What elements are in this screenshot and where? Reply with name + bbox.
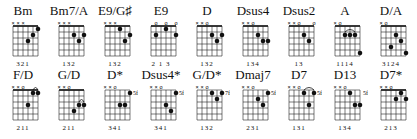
muted-string-icon: ×: [379, 84, 382, 90]
fretboard-grid: ××o5fr: [138, 82, 184, 124]
finger-dot-icon: [348, 91, 353, 96]
muted-string-icon: ×: [62, 84, 65, 90]
open-string-icon: o: [164, 20, 167, 26]
open-string-icon: o: [67, 84, 70, 90]
muted-string-icon: ×: [333, 20, 336, 26]
chord-name: G/D*: [184, 68, 230, 82]
muted-string-icon: ×: [103, 84, 106, 90]
fretboard-grid: ××o5fr: [230, 82, 276, 124]
chord-name: D7: [276, 68, 322, 82]
finger-dot-icon: [128, 91, 133, 96]
fretboard-grid: ×××: [92, 18, 138, 60]
open-string-icon: o: [159, 84, 162, 90]
finger-dot-icon: [312, 91, 317, 96]
finger-dot-icon: [266, 91, 271, 96]
chord-diagram: D7××o5fr131: [276, 68, 322, 134]
chord-diagram: D/A×o3124: [368, 4, 414, 70]
fretboard-grid: ××o7fr: [184, 82, 230, 124]
fretboard-grid: ×o: [322, 18, 368, 60]
chord-name: D: [184, 4, 230, 18]
finger-dot-icon: [348, 33, 353, 38]
finger-dot-icon: [394, 33, 399, 38]
finger-dot-icon: [389, 45, 394, 50]
chord-diagram: Dmaj7××o5fr231: [230, 68, 276, 134]
chord-name: F/D: [0, 68, 46, 82]
chord-diagram: D7*××o213: [368, 68, 414, 134]
muted-string-icon: ×: [108, 20, 111, 26]
barre-arc-icon: [79, 100, 84, 103]
barre-arc-icon: [304, 88, 314, 91]
chord-diagram: E9/G♯×××132: [92, 4, 138, 70]
muted-string-icon: ×: [16, 20, 19, 26]
chord-name: G/D: [46, 68, 92, 82]
muted-string-icon: ×: [241, 84, 244, 90]
muted-string-icon: ×: [246, 20, 249, 26]
finger-dot-icon: [169, 109, 174, 114]
finger-dot-icon: [82, 103, 87, 108]
open-string-icon: o: [389, 84, 392, 90]
fretboard-grid: ××o: [0, 82, 46, 124]
chord-diagram: D*××o5fr341: [92, 68, 138, 134]
chord-name: Dsus4*: [138, 68, 184, 82]
muted-string-icon: ×: [195, 84, 198, 90]
finger-dot-icon: [399, 39, 404, 44]
muted-string-icon: ×: [287, 20, 290, 26]
finger-dot-icon: [31, 33, 36, 38]
chord-diagram: Bm×××321: [0, 4, 46, 70]
fretboard-grid: ×××: [46, 18, 92, 60]
finger-dot-icon: [307, 103, 312, 108]
chord-diagram: D13××o5fr134: [322, 68, 368, 134]
open-string-icon: o: [174, 20, 177, 26]
fingering-label: 231: [230, 124, 276, 132]
fretboard-grid: ××oo: [276, 18, 322, 60]
muted-string-icon: ×: [62, 20, 65, 26]
finger-dot-icon: [72, 109, 77, 114]
muted-string-icon: ×: [287, 84, 290, 90]
open-string-icon: o: [297, 20, 300, 26]
muted-string-icon: ×: [57, 84, 60, 90]
open-string-icon: o: [154, 20, 157, 26]
chord-diagram: Dsus2××oo13: [276, 4, 322, 70]
finger-dot-icon: [302, 91, 307, 96]
fretboard-grid: ××o: [184, 18, 230, 60]
chord-diagram: Bm7/A×××132: [46, 4, 92, 70]
chord-name: D13: [322, 68, 368, 82]
finger-dot-icon: [82, 33, 87, 38]
fretboard-grid: ××o5fr: [276, 82, 322, 124]
fretboard-grid: ×××: [0, 18, 46, 60]
finger-dot-icon: [154, 33, 159, 38]
open-string-icon: o: [21, 84, 24, 90]
muted-string-icon: ×: [21, 20, 24, 26]
muted-string-icon: ×: [246, 84, 249, 90]
open-string-icon: o: [205, 84, 208, 90]
chord-name: D7*: [368, 68, 414, 82]
open-string-icon: o: [297, 84, 300, 90]
finger-dot-icon: [128, 33, 133, 38]
finger-dot-icon: [394, 97, 399, 102]
muted-string-icon: ×: [200, 84, 203, 90]
chord-diagram: G/D××o211: [46, 68, 92, 134]
chord-diagram: A×o1114: [322, 4, 368, 70]
finger-dot-icon: [77, 39, 82, 44]
fretboard-grid: ××o: [46, 82, 92, 124]
finger-dot-icon: [118, 27, 123, 32]
open-string-icon: o: [205, 20, 208, 26]
chord-diagram: E9ooo2 1 3: [138, 4, 184, 70]
finger-dot-icon: [164, 27, 169, 32]
chord-name: E9/G♯: [92, 4, 138, 18]
fingering-label: 211: [46, 124, 92, 132]
fingering-label: 131: [276, 124, 322, 132]
finger-dot-icon: [36, 91, 41, 96]
chord-name: D/A: [368, 4, 414, 18]
finger-dot-icon: [261, 39, 266, 44]
finger-dot-icon: [358, 103, 363, 108]
open-string-icon: o: [251, 84, 254, 90]
finger-dot-icon: [174, 91, 179, 96]
muted-string-icon: ×: [103, 20, 106, 26]
chord-name: Dsus2: [276, 4, 322, 18]
finger-dot-icon: [36, 27, 41, 32]
muted-string-icon: ×: [292, 84, 295, 90]
muted-string-icon: ×: [113, 20, 116, 26]
chord-name: Dmaj7: [230, 68, 276, 82]
finger-dot-icon: [404, 51, 409, 56]
